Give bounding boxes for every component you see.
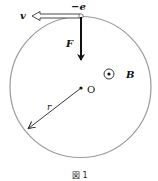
force-label: F xyxy=(65,38,74,49)
figure-diagram: −e v F B O r 図 1 xyxy=(0,0,158,181)
radius-arrow xyxy=(29,88,81,128)
field-out-of-page-icon xyxy=(104,69,114,79)
radius-label: r xyxy=(47,102,52,112)
velocity-arrow xyxy=(32,12,80,21)
velocity-label: v xyxy=(20,10,26,21)
field-label: B xyxy=(125,69,134,80)
figure-caption: 図 1 xyxy=(72,171,88,180)
charge-label: −e xyxy=(71,1,86,12)
center-label: O xyxy=(87,84,95,95)
